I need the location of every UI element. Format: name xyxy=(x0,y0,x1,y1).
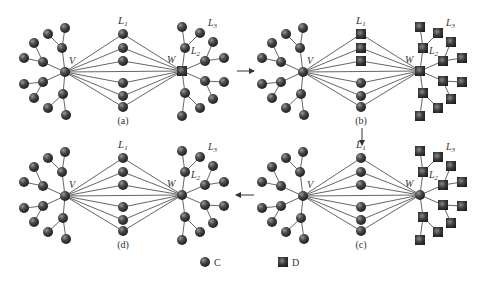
panel-c: VWL1L2L3(c) xyxy=(257,138,467,251)
left-leaf-circle-icon xyxy=(19,203,29,213)
right-leaf-square-icon xyxy=(415,22,425,32)
right-node-circle-icon xyxy=(200,180,210,190)
label-l2: L2 xyxy=(190,169,201,182)
right-node-square-icon xyxy=(438,200,448,210)
panel-d: VWL1L2L3(d) xyxy=(19,138,229,251)
right-leaf-circle-icon xyxy=(219,53,229,63)
left-leaf-circle-icon xyxy=(61,110,71,120)
edge xyxy=(123,34,182,71)
label-w: W xyxy=(167,54,177,65)
label-l1: L1 xyxy=(355,138,366,152)
middle-node-circle-icon xyxy=(118,153,128,163)
edge xyxy=(361,195,420,231)
left-leaf-circle-icon xyxy=(43,29,53,39)
edge xyxy=(361,34,420,71)
left-node-circle-icon xyxy=(38,57,48,67)
left-node-circle-icon xyxy=(295,167,305,177)
right-leaf-circle-icon xyxy=(219,177,229,187)
left-leaf-circle-icon xyxy=(60,23,70,33)
label-l1: L1 xyxy=(117,138,128,152)
panel-a: VWL1L2L3(a) xyxy=(19,14,229,127)
right-node-circle-icon xyxy=(200,76,210,86)
left-node-circle-icon xyxy=(276,201,286,211)
right-leaf-circle-icon xyxy=(219,201,229,211)
left-leaf-circle-icon xyxy=(267,162,277,172)
middle-node-circle-icon xyxy=(118,102,128,112)
right-leaf-circle-icon xyxy=(177,111,187,121)
left-leaf-circle-icon xyxy=(299,234,309,244)
edge xyxy=(123,195,182,231)
edge xyxy=(361,71,420,96)
edge xyxy=(123,158,182,195)
label-v: V xyxy=(69,179,77,190)
left-leaf-circle-icon xyxy=(281,153,291,163)
label-l2: L2 xyxy=(190,45,201,58)
label-l3: L3 xyxy=(445,17,456,30)
middle-node-circle-icon xyxy=(118,56,128,66)
left-node-circle-icon xyxy=(276,181,286,191)
middle-node-circle-icon xyxy=(356,215,366,225)
hub-w-circle-icon xyxy=(177,190,187,200)
left-node-circle-icon xyxy=(295,43,305,53)
hub-w-square-icon xyxy=(177,66,187,76)
middle-node-square-icon xyxy=(356,29,366,39)
right-node-square-icon xyxy=(418,167,428,177)
right-node-circle-icon xyxy=(180,43,190,53)
middle-node-square-icon xyxy=(356,56,366,66)
right-leaf-square-icon xyxy=(446,218,456,228)
left-leaf-circle-icon xyxy=(281,29,291,39)
label-v: V xyxy=(307,55,315,66)
edge xyxy=(361,71,420,107)
middle-node-circle-icon xyxy=(118,167,128,177)
left-leaf-circle-icon xyxy=(29,162,39,172)
label-l2: L2 xyxy=(428,45,439,58)
right-leaf-square-icon xyxy=(433,28,443,38)
left-leaf-circle-icon xyxy=(43,153,53,163)
left-leaf-circle-icon xyxy=(43,227,53,237)
right-node-circle-icon xyxy=(200,56,210,66)
label-l3: L3 xyxy=(207,141,218,154)
left-leaf-circle-icon xyxy=(298,147,308,157)
right-leaf-circle-icon xyxy=(177,146,187,156)
right-leaf-square-icon xyxy=(457,77,467,87)
legend: C D xyxy=(200,257,299,268)
right-node-square-icon xyxy=(418,88,428,98)
middle-node-circle-icon xyxy=(118,29,128,39)
left-leaf-circle-icon xyxy=(281,227,291,237)
left-leaf-circle-icon xyxy=(61,234,71,244)
left-node-circle-icon xyxy=(38,201,48,211)
edge xyxy=(361,71,420,83)
caption-b: (b) xyxy=(355,115,367,127)
middle-node-circle-icon xyxy=(356,180,366,190)
right-leaf-circle-icon xyxy=(219,77,229,87)
right-leaf-circle-icon xyxy=(208,37,218,47)
left-leaf-circle-icon xyxy=(267,217,277,227)
edge xyxy=(361,158,420,195)
label-l3: L3 xyxy=(207,17,218,30)
left-leaf-circle-icon xyxy=(19,79,29,89)
label-w: W xyxy=(405,178,415,189)
hub-v-circle-icon xyxy=(60,191,70,201)
edge xyxy=(303,71,420,72)
left-node-circle-icon xyxy=(276,57,286,67)
edge xyxy=(361,195,420,207)
right-leaf-circle-icon xyxy=(195,103,205,113)
edge xyxy=(65,71,182,72)
middle-node-circle-icon xyxy=(356,102,366,112)
left-node-circle-icon xyxy=(296,213,306,223)
edge xyxy=(303,196,361,220)
right-leaf-circle-icon xyxy=(208,94,218,104)
left-leaf-circle-icon xyxy=(257,53,267,63)
hub-v-circle-icon xyxy=(298,67,308,77)
right-node-circle-icon xyxy=(180,212,190,222)
left-leaf-circle-icon xyxy=(257,203,267,213)
left-leaf-circle-icon xyxy=(29,93,39,103)
right-leaf-circle-icon xyxy=(195,28,205,38)
middle-node-circle-icon xyxy=(118,226,128,236)
left-node-circle-icon xyxy=(38,181,48,191)
caption-d: (d) xyxy=(117,239,129,251)
label-w: W xyxy=(405,54,415,65)
edge xyxy=(123,71,182,96)
caption-a: (a) xyxy=(117,115,128,127)
right-leaf-square-icon xyxy=(415,111,425,121)
